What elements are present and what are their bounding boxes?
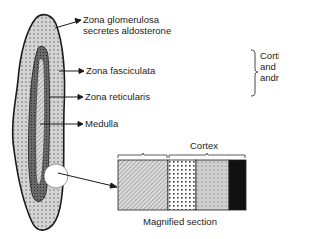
label-zona-glomerulosa: Zona glomerulosa secretes aldosterone [83, 14, 171, 36]
label-zona-fasciculata: Zona fasciculata [86, 65, 155, 76]
section-braces [118, 153, 245, 158]
magnified-area-circle [44, 164, 68, 188]
label-cortisol-androgens: Cortisol and androgens [260, 50, 279, 83]
hormone-bracket [251, 50, 258, 96]
label-magnified-section: Magnified section [143, 216, 217, 227]
label-zona-reticularis: Zona reticularis [85, 91, 150, 102]
label-medulla: Medulla [85, 118, 118, 129]
label-cortex: Cortex [190, 140, 218, 151]
magnified-section [118, 160, 246, 210]
